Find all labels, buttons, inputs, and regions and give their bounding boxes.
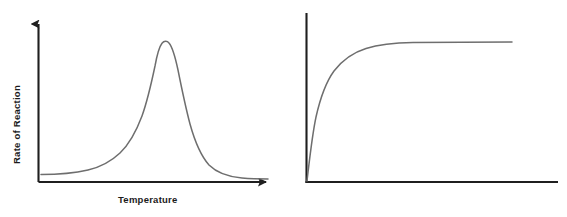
chart-panel-substrate: Substrate Concentration Rate of Reaction bbox=[283, 0, 567, 217]
temperature-x-axis-label: Temperature bbox=[118, 195, 178, 205]
substrate-plot-area bbox=[283, 0, 567, 217]
chart-panel-temperature: Temperature Rate of Reaction bbox=[0, 0, 283, 217]
figure-canvas: Temperature Rate of Reaction Substrate C… bbox=[0, 0, 567, 217]
substrate-saturation-curve bbox=[307, 42, 512, 181]
temperature-response-curve bbox=[41, 41, 268, 179]
temperature-y-axis-label: Rate of Reaction bbox=[12, 85, 22, 164]
temperature-plot-area bbox=[0, 0, 283, 217]
